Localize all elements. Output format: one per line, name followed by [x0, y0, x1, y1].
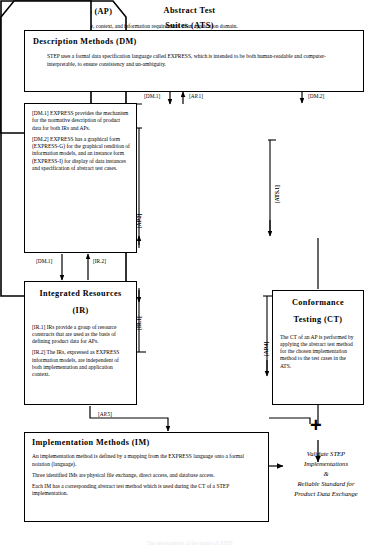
connector-label-ap2: [AP.2]	[136, 214, 142, 228]
connector-label-ap5-to-im: [AP.5]	[98, 411, 112, 417]
dm-detail-body: [DM.1] EXPRESS provides the mechanism fo…	[32, 110, 130, 172]
goal-line-2: Implementations	[276, 459, 376, 469]
ats-title-line1: Abstract Test	[6, 6, 373, 16]
connector-label-ir2-to-dm: [IR.2]	[93, 258, 106, 264]
description-methods-box: Description Methods (DM) STEP uses a for…	[24, 30, 364, 92]
connector-label-dm2-to-ats: [DM.2]	[308, 93, 324, 99]
ct-title-line1: Conformance	[273, 298, 363, 308]
ir-body-p1: [IR.1] IRs provide a group of resource c…	[32, 324, 130, 346]
integrated-resources-box: Integrated Resources (IR) [IR.1] IRs pro…	[24, 281, 137, 405]
connector-label-dm1-to-ir: [DM.1]	[36, 258, 52, 264]
connector-label-dm1-to-ap: [DM.1]	[144, 93, 160, 99]
im-title: Implementation Methods (IM)	[32, 438, 268, 448]
goal-line-1: Validate STEP	[276, 449, 376, 459]
ct-title-line2: Testing (CT)	[273, 315, 363, 325]
ir-title-line2: (IR)	[25, 306, 136, 316]
dm-detail-p2: [DM.2] EXPRESS has a graphical form (EXP…	[32, 136, 130, 172]
ir-body-p2: [IR.2] The IRs, expressed as EXPRESS inf…	[32, 349, 130, 378]
connector-label-ap4: [AP.4]	[263, 342, 269, 356]
im-body-p2: Three identified IMs are physical file e…	[32, 472, 260, 479]
dm-detail-p1: [DM.1] EXPRESS provides the mechanism fo…	[32, 110, 130, 132]
ir-title-line1: Integrated Resources	[25, 289, 136, 299]
implementation-methods-box: Implementation Methods (IM) An implement…	[24, 432, 269, 522]
connector-label-ats1: [ATS.1]	[274, 185, 280, 203]
ir-body: [IR.1] IRs provide a group of resource c…	[32, 324, 130, 379]
dm-body-p1: STEP uses a formal data specification la…	[47, 53, 353, 68]
junction-plus-symbol: +	[310, 415, 322, 435]
diagram-canvas: Description Methods (DM) STEP uses a for…	[0, 0, 379, 553]
dm-title: Description Methods (DM)	[33, 37, 363, 47]
goal-statement: Validate STEP Implementations & Reliable…	[276, 449, 376, 498]
dm-detail-box: [DM.1] EXPRESS provides the mechanism fo…	[24, 103, 137, 253]
im-body-p1: An implementation method is defined by a…	[32, 453, 260, 468]
connector-label-ir1: [IR.1]	[136, 316, 142, 330]
goal-line-5: Product Data Exchange	[276, 489, 376, 499]
figure-caption: The development of the model of STEP	[0, 540, 379, 546]
im-body: An implementation method is defined by a…	[32, 453, 260, 497]
ct-body: The CT of an AP is performed by applying…	[280, 334, 358, 370]
ct-body-p1: The CT of an AP is performed by applying…	[280, 334, 358, 370]
dm-body: STEP uses a formal data specification la…	[47, 53, 353, 68]
connector-label-ap1-to-dm: [AP.1]	[189, 93, 203, 99]
goal-line-3: &	[276, 469, 376, 479]
im-body-p3: Each IM has a corresponding abstract tes…	[32, 483, 260, 498]
conformance-testing-box: Conformance Testing (CT) The CT of an AP…	[272, 290, 364, 405]
goal-line-4: Reliable Standard for	[276, 479, 376, 489]
